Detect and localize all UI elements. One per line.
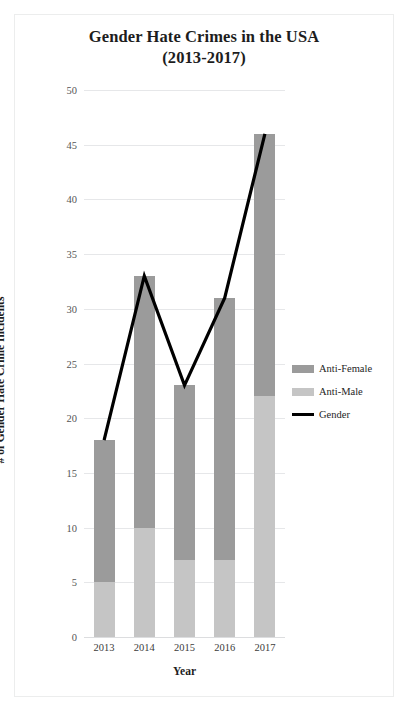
legend-swatch-icon — [292, 365, 314, 373]
y-axis-title: # of Gender Hate Crime Incidents — [0, 250, 6, 510]
bar-group — [174, 90, 195, 637]
bar-segment-anti-female — [94, 440, 115, 582]
bar-group — [254, 90, 275, 637]
y-axis-tick-label: 0 — [31, 632, 77, 643]
bar-segment-anti-male — [254, 396, 275, 637]
bar-segment-anti-female — [174, 385, 195, 560]
chart-legend: Anti-FemaleAnti-MaleGender — [292, 359, 396, 428]
chart-title-line-1: Gender Hate Crimes in the USA — [14, 26, 394, 47]
legend-line-icon — [292, 413, 314, 416]
chart-title: Gender Hate Crimes in the USA (2013-2017… — [14, 26, 394, 68]
y-axis-tick-label: 15 — [31, 467, 77, 478]
bar-segment-anti-male — [174, 560, 195, 637]
y-axis-tick-label: 25 — [31, 358, 77, 369]
plot-area: 50454035302520151050 2013201420152016201… — [84, 90, 285, 637]
y-axis-tick-label: 30 — [31, 303, 77, 314]
legend-item-label: Gender — [319, 409, 350, 421]
legend-swatch-icon — [292, 388, 314, 396]
y-axis-tick-label: 40 — [31, 194, 77, 205]
y-axis-tick-label: 35 — [31, 249, 77, 260]
bar-segment-anti-female — [214, 298, 235, 561]
y-axis-tick-label: 20 — [31, 413, 77, 424]
bar-segment-anti-male — [214, 560, 235, 637]
legend-item[interactable]: Anti-Female — [292, 359, 396, 378]
bar-segment-anti-male — [134, 528, 155, 637]
chart-container: Gender Hate Crimes in the USA (2013-2017… — [0, 0, 408, 711]
chart-title-line-2: (2013-2017) — [14, 47, 394, 68]
legend-item-label: Anti-Female — [319, 363, 372, 375]
legend-item[interactable]: Anti-Male — [292, 382, 396, 401]
bar-segment-anti-male — [94, 582, 115, 637]
legend-item-label: Anti-Male — [319, 386, 363, 398]
y-axis-tick-label: 5 — [31, 577, 77, 588]
bar-segment-anti-female — [254, 134, 275, 397]
bar-segment-anti-female — [134, 276, 155, 528]
bar-group — [94, 90, 115, 637]
legend-item[interactable]: Gender — [292, 405, 396, 424]
x-axis-tick-label: 2017 — [238, 637, 292, 653]
y-axis-tick-label: 45 — [31, 139, 77, 150]
y-axis-tick-label: 50 — [31, 85, 77, 96]
bar-group — [134, 90, 155, 637]
x-axis-title: Year — [84, 665, 285, 677]
bar-group — [214, 90, 235, 637]
y-axis-tick-label: 10 — [31, 522, 77, 533]
